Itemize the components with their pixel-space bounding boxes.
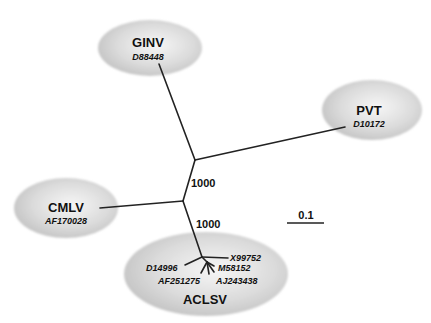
pvt-accession: D10172 — [353, 119, 385, 129]
pvt-label: PVT — [356, 103, 381, 118]
aclsv-accession-af251275: AF251275 — [157, 276, 201, 286]
cmlv-accession: AF170028 — [44, 216, 87, 226]
scale-bar-label: 0.1 — [298, 209, 313, 221]
bootstrap-lower: 1000 — [196, 218, 220, 230]
phylogenetic-tree: GINV D88448 PVT D10172 CMLV AF170028 X99… — [0, 0, 431, 323]
aclsv-accession-aj243438: AJ243438 — [215, 276, 258, 286]
scale-bar: 0.1 — [287, 209, 324, 223]
cmlv-label: CMLV — [48, 200, 84, 215]
aclsv-accession-d14996: D14996 — [146, 263, 179, 273]
ginv-accession: D88448 — [132, 52, 164, 62]
aclsv-accession-m58152: M58152 — [218, 263, 251, 273]
aclsv-label: ACLSV — [183, 292, 227, 307]
branch-pvt — [195, 127, 345, 160]
branch-x99752 — [202, 257, 228, 258]
aclsv-accession-x99752: X99752 — [229, 253, 261, 263]
ginv-label: GINV — [132, 35, 164, 50]
bootstrap-upper: 1000 — [191, 177, 215, 189]
branch-ginv — [159, 64, 195, 160]
